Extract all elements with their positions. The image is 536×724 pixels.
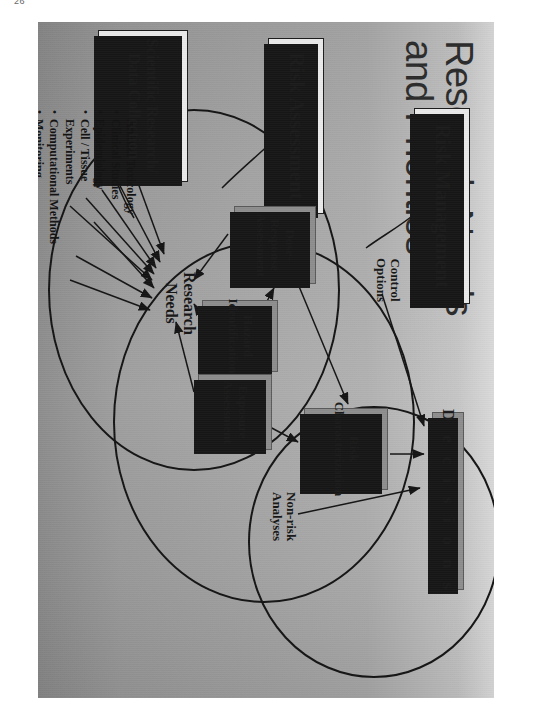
box-hazard-identification: Hazard Identification [202,300,278,372]
scanned-page: 26 [0,0,536,724]
box-risk-assessment-label: Risk Assessment [284,48,308,204]
label-research-needs-line-2: Needs [163,272,181,335]
box-risk-characterization: Risk Characterization [304,408,388,490]
box-hazard-line-2: Identification [226,298,241,373]
box-exposure-line-1: Exposure [236,386,251,439]
box-decisions: Decisions [432,412,464,590]
label-non-risk-line-2: Analyses [269,492,283,541]
page-number: 26 [14,0,54,10]
box-risk-char-line-2: Characterization [332,402,347,497]
box-risk-char-line-1: Risk [347,436,362,461]
box-dose-response-line-2: Assessment [254,213,269,277]
label-control-options: Control Options [373,258,402,302]
box-scientific-research-line-1: Scientific Research/ [144,39,161,173]
box-hazard-line-1: Hazard [241,315,256,357]
research-methods-list-items: Animal Toxicology Clinical Studies Epide… [38,110,138,244]
list-item: Clinical Studies [107,110,122,244]
arrow-exposure-to-riskchar [268,426,298,442]
label-control-options-line-2: Options [373,258,387,302]
list-item: Computational Methods [46,110,61,244]
arrow-doseresponse-to-researchneeds [194,234,228,280]
box-dose-response-assessment: Dose-Response Assessment [234,206,316,284]
box-scientific-research-line-2: Data Collection [126,53,143,159]
list-item: Monitoring [38,110,46,244]
label-research-needs: Research Needs [163,272,198,335]
box-decisions-label: Decisions [438,395,457,607]
list-item: Cell / Tissue [77,110,92,244]
label-non-risk-line-1: Non-risk [284,492,298,541]
slide-scan-area: Research Needs and Priorities Risk Manag… [38,22,494,698]
box-scientific-research-label: Scientific Research/ Data Collection [125,35,161,177]
arrow-dose-response-to-riskchar [298,284,348,404]
box-risk-assessment: Risk Assessment [268,38,324,214]
list-item: Epidemiology [92,110,107,244]
label-non-risk-analyses: Non-risk Analyses [269,492,298,541]
box-risk-management: Risk Management [414,108,470,304]
box-dose-response-line-1: Dose-Response [268,219,298,271]
label-research-needs-line-1: Research [180,272,198,335]
research-methods-list: Animal Toxicology Clinical Studies Epide… [38,110,138,244]
box-exposure-assessment: Exposure Assessment [198,374,272,450]
list-item: Experiments [61,110,76,244]
label-control-options-line-1: Control [388,258,402,302]
box-risk-management-label: Risk Management [430,120,454,292]
slide-canvas: Research Needs and Priorities Risk Manag… [38,22,494,698]
box-exposure-line-2: Assessment [221,380,236,444]
